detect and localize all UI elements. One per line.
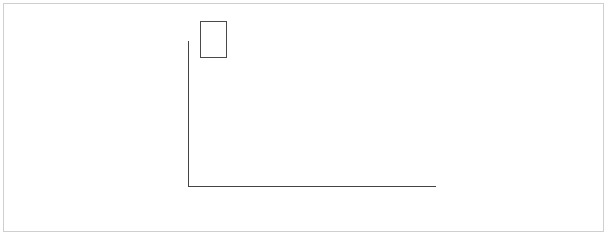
chart-frame [3,3,604,232]
legend-item [206,39,219,53]
x-axis-line [188,186,436,187]
chart-plot-area [188,24,438,189]
legend-swatch-14-to-17-icon [206,42,214,50]
legend-item [206,25,219,39]
legend-swatch-18-to-24-icon [206,28,214,36]
bar-series-layer [189,41,437,186]
chart-legend [200,21,227,58]
